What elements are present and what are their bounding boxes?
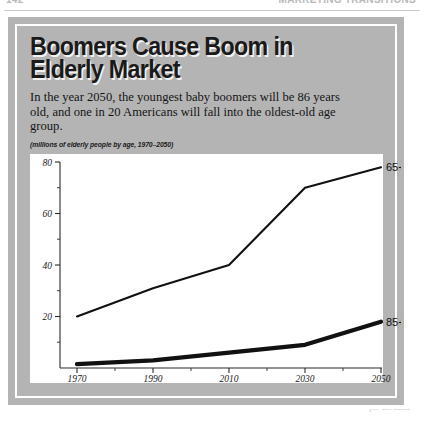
chart-svg: 80 60 40 20 bbox=[30, 154, 401, 383]
feature-panel-inner-border: Boomers Cause Boom in Elderly Market In … bbox=[15, 24, 397, 398]
line-chart: 80 60 40 20 bbox=[30, 154, 383, 383]
series-label-85plus: 85+ bbox=[386, 315, 401, 327]
series-label-65plus: 65+ bbox=[386, 161, 401, 173]
x-axis-major-ticks bbox=[77, 368, 381, 373]
x-tick-label: 2010 bbox=[220, 374, 239, 383]
footer-note: for all data bbox=[369, 409, 410, 412]
y-tick-label: 20 bbox=[43, 312, 53, 322]
x-tick-label: 1990 bbox=[144, 374, 163, 383]
series-line-65plus bbox=[77, 167, 381, 316]
y-tick-label: 40 bbox=[43, 260, 53, 270]
x-tick-label: 1970 bbox=[68, 374, 87, 383]
panel-headline: Boomers Cause Boom in Elderly Market bbox=[30, 35, 358, 81]
panel-deck-text: In the year 2050, the youngest baby boom… bbox=[30, 90, 361, 134]
x-tick-label: 2030 bbox=[296, 374, 315, 383]
x-tick-label: 2050 bbox=[372, 374, 391, 383]
page-footer-scrap: for all data bbox=[0, 409, 424, 429]
page-folio-number: 142 bbox=[6, 0, 24, 5]
series-line-85plus bbox=[77, 321, 381, 363]
header-rule bbox=[4, 10, 420, 11]
page-running-header: 142 MARKETING TRANSITIONS bbox=[0, 0, 424, 13]
y-tick-label: 60 bbox=[43, 209, 53, 219]
running-title: MARKETING TRANSITIONS bbox=[279, 0, 416, 5]
chart-caption: (millions of elderly people by age, 1970… bbox=[30, 140, 355, 149]
feature-panel: Boomers Cause Boom in Elderly Market In … bbox=[8, 17, 404, 405]
x-axis-tick-labels: 1970 1990 2010 2030 2050 bbox=[68, 374, 391, 383]
y-tick-label: 80 bbox=[43, 157, 53, 167]
y-axis-tick-labels: 80 60 40 20 bbox=[43, 157, 53, 322]
